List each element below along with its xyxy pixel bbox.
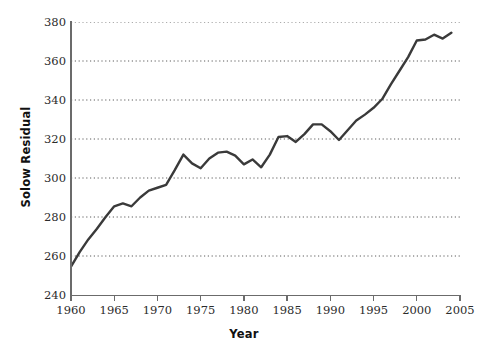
x-tick-mark xyxy=(459,296,460,301)
x-tick-label: 2005 xyxy=(435,305,485,317)
x-tick-mark xyxy=(157,296,158,301)
x-tick-mark xyxy=(70,296,71,301)
solow-residual-line-chart: 380360340320300280260240 196019651970197… xyxy=(0,0,488,361)
x-axis-tick-labels: 1960196519701975198019851990199520002005 xyxy=(0,0,488,361)
x-tick-mark xyxy=(243,296,244,301)
y-axis-title: Solow Residual xyxy=(19,77,33,237)
x-tick-mark xyxy=(114,296,115,301)
x-tick-mark xyxy=(416,296,417,301)
x-tick-mark xyxy=(200,296,201,301)
x-tick-mark xyxy=(286,296,287,301)
x-tick-mark xyxy=(373,296,374,301)
x-tick-mark xyxy=(330,296,331,301)
x-axis-title: Year xyxy=(0,327,488,341)
